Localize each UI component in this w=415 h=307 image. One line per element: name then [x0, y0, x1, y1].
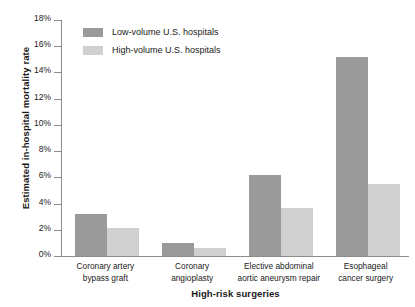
legend-swatch-icon	[83, 28, 103, 37]
bar-group	[336, 20, 400, 256]
y-axis-tick: 16%	[54, 46, 62, 47]
legend-item[interactable]: Low-volume U.S. hospitals	[83, 24, 221, 40]
bar[interactable]	[368, 184, 400, 256]
y-axis-tick-label: 6%	[39, 170, 51, 180]
legend-item-label: High-volume U.S. hospitals	[112, 45, 221, 55]
legend-item[interactable]: High-volume U.S. hospitals	[83, 42, 221, 58]
bar-chart: Estimated in-hospital mortality rate 18%…	[0, 0, 415, 307]
y-axis-tick-label: 12%	[34, 92, 51, 102]
y-axis-line	[61, 20, 62, 256]
y-axis-tick: 6%	[54, 177, 62, 178]
bar[interactable]	[162, 243, 194, 256]
legend-swatch-icon	[83, 46, 103, 55]
chart-legend: Low-volume U.S. hospitalsHigh-volume U.S…	[83, 24, 221, 60]
y-axis-tick-label: 0%	[39, 249, 51, 259]
y-axis-tick: 2%	[54, 230, 62, 231]
y-axis-tick: 18%	[54, 20, 62, 21]
x-axis-category-label: Esophagealcancer surgery	[314, 261, 415, 284]
y-axis-tick-label: 2%	[39, 223, 51, 233]
y-axis-tick: 12%	[54, 99, 62, 100]
x-axis-line	[61, 256, 409, 257]
y-axis-tick-label: 14%	[34, 65, 51, 75]
y-axis-title: Estimated in-hospital mortality rate	[16, 0, 34, 256]
y-axis-tick-label: 4%	[39, 197, 51, 207]
y-axis-tick-label: 16%	[34, 39, 51, 49]
bar[interactable]	[281, 208, 313, 257]
y-axis-tick: 8%	[54, 151, 62, 152]
bar[interactable]	[336, 57, 368, 256]
bar[interactable]	[107, 228, 139, 256]
bar-group	[249, 20, 313, 256]
y-axis-tick: 0%	[54, 256, 62, 257]
y-axis-tick: 4%	[54, 204, 62, 205]
bar[interactable]	[194, 248, 226, 256]
legend-item-label: Low-volume U.S. hospitals	[112, 27, 219, 37]
y-axis-tick-label: 18%	[34, 13, 51, 23]
x-axis-title: High-risk surgeries	[62, 288, 409, 299]
bar[interactable]	[249, 175, 281, 256]
bar[interactable]	[75, 214, 107, 256]
y-axis-tick-label: 10%	[34, 118, 51, 128]
y-axis-tick-label: 8%	[39, 144, 51, 154]
x-axis-category-label-line: Esophageal	[314, 261, 415, 273]
y-axis-tick: 10%	[54, 125, 62, 126]
x-axis-category-label-line: cancer surgery	[314, 273, 415, 285]
y-axis-tick: 14%	[54, 72, 62, 73]
